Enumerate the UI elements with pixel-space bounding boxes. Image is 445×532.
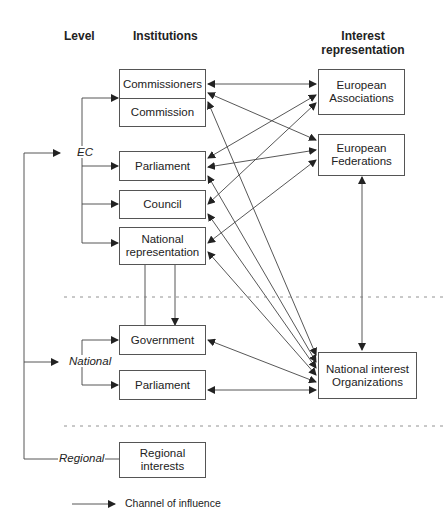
level-national: National [68, 355, 112, 367]
box-council: Council [119, 190, 206, 219]
european-associations-label: European Associations [319, 79, 404, 105]
level-ec: EC [76, 146, 94, 158]
government-label: Government [131, 334, 194, 347]
box-regional-interests: Regional interests [119, 442, 206, 478]
commission-label: Commission [131, 106, 194, 119]
level-regional: Regional [58, 452, 105, 464]
council-label: Council [143, 198, 181, 211]
parliament-ec-label: Parliament [135, 160, 190, 173]
legend-label: Channel of influence [125, 497, 221, 509]
header-interest-representation: Interest representation [318, 29, 408, 57]
parliament-national-label: Parliament [135, 379, 190, 392]
box-commission: Commission [119, 98, 206, 127]
box-european-associations: European Associations [318, 69, 405, 115]
box-commissioners: Commissioners [119, 69, 206, 99]
box-national-interest-organizations: National interest Organizations [318, 352, 417, 399]
national-interest-organizations-label: National interest Organizations [319, 363, 416, 389]
box-parliament-national: Parliament [119, 370, 206, 400]
regional-interests-label: Regional interests [120, 447, 205, 473]
header-institutions: Institutions [133, 29, 198, 43]
box-european-federations: European Federations [318, 134, 405, 176]
box-government: Government [119, 325, 206, 355]
box-national-representation: National representation [119, 227, 206, 265]
box-parliament-ec: Parliament [119, 151, 206, 181]
commissioners-label: Commissioners [123, 78, 202, 91]
european-federations-label: European Federations [319, 142, 404, 168]
header-level: Level [64, 29, 95, 43]
national-representation-label: National representation [120, 233, 205, 259]
